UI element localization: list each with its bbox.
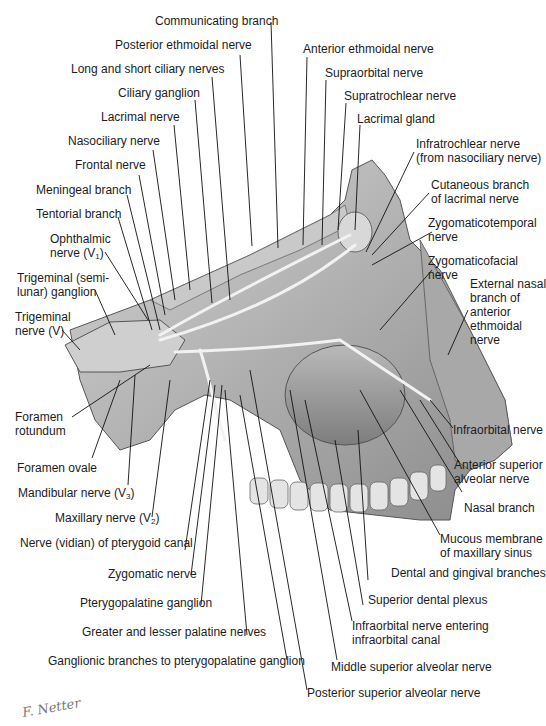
label-superior-dental-plexus: Superior dental plexus: [368, 593, 487, 607]
label-external-nasal-branch: External nasal branch of anterior ethmoi…: [470, 277, 546, 347]
label-nasal-branch: Nasal branch: [464, 501, 535, 515]
label-pterygopalatine-ganglion: Pterygopalatine ganglion: [80, 596, 212, 610]
label-nasociliary-nerve: Nasociliary nerve: [68, 134, 160, 148]
label-cutaneous-branch-lacrimal: Cutaneous branch of lacrimal nerve: [431, 178, 529, 206]
label-tentorial-branch: Tentorial branch: [36, 207, 121, 221]
label-foramen-rotundum: Foramen rotundum: [15, 410, 66, 438]
label-supratrochlear-nerve: Supratrochlear nerve: [344, 89, 456, 103]
label-foramen-ovale: Foramen ovale: [17, 461, 97, 475]
label-trigeminal-ganglion: Trigeminal (semi- lunar) ganglion: [17, 271, 109, 299]
label-lacrimal-gland: Lacrimal gland: [357, 112, 435, 126]
label-maxillary-nerve: Maxillary nerve (V2): [55, 511, 159, 529]
label-posterior-ethmoidal-nerve: Posterior ethmoidal nerve: [115, 38, 252, 52]
label-ciliary-ganglion: Ciliary ganglion: [118, 86, 200, 100]
label-lacrimal-nerve: Lacrimal nerve: [101, 110, 180, 124]
label-long-short-ciliary-nerves: Long and short ciliary nerves: [71, 62, 224, 76]
label-posterior-superior-alveolar: Posterior superior alveolar nerve: [307, 686, 480, 700]
label-frontal-nerve: Frontal nerve: [75, 158, 146, 172]
label-mandibular-nerve: Mandibular nerve (V3): [18, 486, 135, 504]
label-supraorbital-nerve: Supraorbital nerve: [325, 66, 423, 80]
label-middle-superior-alveolar: Middle superior alveolar nerve: [331, 660, 492, 674]
label-infraorbital-entering: Infraorbital nerve entering infraorbital…: [352, 619, 489, 647]
label-mucous-membrane: Mucous membrane of maxillary sinus: [440, 532, 543, 560]
label-anterior-superior-alveolar: Anterior superior alveolar nerve: [454, 458, 543, 486]
label-ganglionic-branches: Ganglionic branches to pterygopalatine g…: [48, 654, 305, 668]
label-infratrochlear-nerve: Infratrochlear nerve (from nasociliary n…: [416, 137, 541, 165]
label-nerve-pterygoid-canal: Nerve (vidian) of pterygoid canal: [20, 536, 193, 550]
label-meningeal-branch: Meningeal branch: [36, 183, 131, 197]
label-trigeminal-nerve: Trigeminal nerve (V): [15, 310, 71, 338]
label-ophthalmic-nerve: Ophthalmic nerve (V1): [50, 232, 111, 264]
label-zygomatic-nerve: Zygomatic nerve: [108, 567, 197, 581]
label-dental-gingival-branches: Dental and gingival branches: [391, 566, 546, 580]
label-communicating-branch: Communicating branch: [155, 14, 278, 28]
label-palatine-nerves: Greater and lesser palatine nerves: [82, 625, 266, 639]
label-anterior-ethmoidal-nerve: Anterior ethmoidal nerve: [303, 42, 434, 56]
label-zygomaticotemporal-nerve: Zygomaticotemporal nerve: [428, 216, 537, 244]
label-infraorbital-nerve: Infraorbital nerve: [453, 423, 543, 437]
